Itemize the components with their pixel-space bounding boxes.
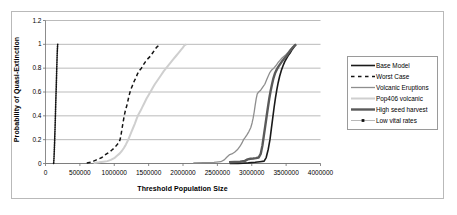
legend-label: Volcanic Eruptions <box>376 82 429 93</box>
legend-item: Volcanic Eruptions <box>350 82 434 93</box>
gridlines <box>46 21 321 164</box>
x-tick-marks <box>43 21 321 167</box>
chart-container: Probability of Quasi-Extinction Threshol… <box>0 0 457 215</box>
y-tick-label: 0.8 <box>20 64 42 71</box>
data-series-group <box>54 44 296 163</box>
series-line-high-seed-harvest <box>229 44 296 162</box>
legend-label: High seed harvest <box>376 104 428 115</box>
y-tick-label: 0.6 <box>20 88 42 95</box>
legend-swatch-pop406-volcanic <box>350 93 376 104</box>
legend-item: High seed harvest <box>350 104 434 115</box>
legend-swatch-base-model <box>350 60 376 71</box>
chart-legend: Base ModelWorst CaseVolcanic EruptionsPo… <box>347 56 438 130</box>
legend-item: Pop406 volcanic <box>350 93 434 104</box>
y-tick-label: 0.2 <box>20 136 42 143</box>
legend-label: Worst Case <box>376 71 409 82</box>
legend-label: Base Model <box>376 60 410 71</box>
series-line-worst-case <box>87 44 161 163</box>
series-line-pop406-volcanic <box>94 44 186 163</box>
y-tick-label: 0 <box>20 160 42 167</box>
legend-label: Pop406 volcanic <box>376 93 423 104</box>
legend-swatch-high-seed-harvest <box>350 104 376 115</box>
series-line-low-vital-rates <box>54 44 58 163</box>
y-axis-title: Probability of Quasi-Extinction <box>13 30 20 150</box>
y-tick-label: 1.2 <box>20 17 42 24</box>
legend-item: Base Model <box>350 60 434 71</box>
legend-swatch-worst-case <box>350 71 376 82</box>
y-tick-label: 1 <box>20 40 42 47</box>
y-tick-label: 0.4 <box>20 112 42 119</box>
legend-item: Worst Case <box>350 71 434 82</box>
x-axis-title: Threshold Population Size <box>45 185 320 192</box>
legend-swatch-volcanic-eruptions <box>350 82 376 93</box>
legend-item: Low vital rates <box>350 115 434 126</box>
x-tick-label: 4000000 <box>294 169 348 176</box>
legend-swatch-low-vital-rates <box>350 115 376 126</box>
legend-label: Low vital rates <box>376 115 417 126</box>
